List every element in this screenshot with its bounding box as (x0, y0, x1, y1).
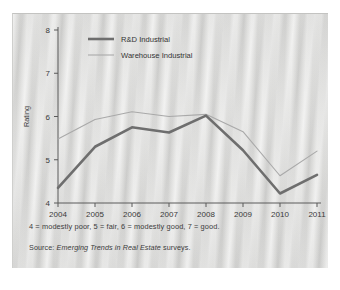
source-publication-title: Emerging Trends in Real Estate (57, 243, 161, 252)
source-suffix: surveys. (161, 243, 191, 252)
x-tick-label: 2006 (123, 210, 141, 219)
x-tick-label: 2004 (49, 210, 67, 219)
y-tick-label: 8 (46, 26, 51, 35)
x-tick-label: 2008 (197, 210, 215, 219)
x-tick-label: 2007 (160, 210, 178, 219)
x-tick-label: 2011 (308, 210, 326, 219)
figure-page: 45678Rating20042005200620072008200920102… (0, 0, 340, 290)
series-line (58, 112, 317, 176)
y-axis-title: Rating (22, 106, 31, 127)
y-tick-label: 7 (46, 69, 51, 78)
x-tick-label: 2005 (86, 210, 104, 219)
rating-scale-note: 4 = modestly poor, 5 = fair, 6 = modestl… (29, 222, 220, 231)
y-tick-label: 4 (46, 199, 51, 208)
source-line: Source: Emerging Trends in Real Estate s… (29, 243, 191, 252)
x-tick-label: 2009 (234, 210, 252, 219)
legend-label: R&D Industrial (121, 35, 170, 44)
source-prefix: Source: (29, 243, 57, 252)
y-tick-label: 6 (46, 113, 51, 122)
y-tick-label: 5 (46, 156, 51, 165)
legend-label: Warehouse Industrial (121, 51, 193, 60)
x-tick-label: 2010 (271, 210, 289, 219)
series-line (58, 116, 317, 194)
